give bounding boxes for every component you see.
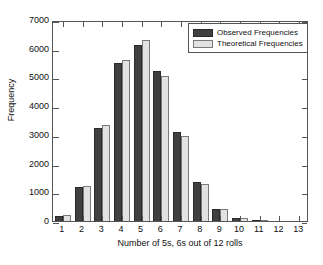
y-tick: 3000 [53,137,59,138]
bar-observed [252,220,260,221]
bar-group [92,22,112,221]
bar-observed [134,45,142,221]
y-tick-mirror [302,137,307,138]
bar-theoretical [161,76,169,221]
x-tick [122,216,123,221]
bar-theoretical [201,184,209,221]
y-tick-mirror [302,79,307,80]
legend-swatch-theoretical-icon [193,40,213,48]
x-tick [63,216,64,221]
bar-observed [232,218,240,221]
x-tick-label: 12 [268,224,288,234]
x-tick [83,216,84,221]
chart-legend: Observed Frequencies Theoretical Frequen… [188,23,308,53]
bar-group [73,22,93,221]
x-tick-label: 5 [131,224,151,234]
x-tick-label: 10 [229,224,249,234]
legend-item-theoretical: Theoretical Frequencies [193,38,303,49]
x-tick-label: 8 [190,224,210,234]
x-tick-label: 7 [170,224,190,234]
x-tick-mirror [161,22,162,27]
y-tick-label: 4000 [29,101,49,111]
y-tick-mirror [302,194,307,195]
bar-theoretical [220,209,228,221]
bar-theoretical [181,136,189,221]
bar-observed [193,182,201,221]
y-tick-label: 7000 [29,15,49,25]
x-tick-label: 1 [52,224,72,234]
y-tick: 7000 [53,22,59,23]
legend-label-observed: Observed Frequencies [217,28,298,38]
bar-observed [75,187,83,221]
x-tick-mirror [181,22,182,27]
x-axis-label: Number of 5s, 6s out of 12 rolls [52,238,308,248]
y-tick: 4000 [53,108,59,109]
bar-theoretical [122,60,130,221]
x-tick-label: 3 [91,224,111,234]
x-tick-mirror [142,22,143,27]
x-tick-label: 11 [249,224,269,234]
bar-observed [173,132,181,221]
bar-group [151,22,171,221]
y-tick-label: 3000 [29,130,49,140]
chart-figure: 01000200030004000500060007000 1234567891… [0,0,323,265]
y-tick-mirror [302,108,307,109]
x-tick-label: 6 [150,224,170,234]
x-tick [299,216,300,221]
bar-theoretical [240,218,248,221]
y-tick-label: 0 [44,216,49,226]
x-tick-mirror [83,22,84,27]
x-tick [240,216,241,221]
x-tick-mirror [122,22,123,27]
bar-group [132,22,152,221]
y-tick-label: 2000 [29,159,49,169]
x-tick [181,216,182,221]
x-tick [142,216,143,221]
y-tick: 2000 [53,166,59,167]
y-tick-label: 5000 [29,72,49,82]
bar-observed [212,209,220,221]
x-tick-mirror [102,22,103,27]
bar-theoretical [260,220,268,221]
x-tick-label: 9 [209,224,229,234]
bar-group [53,22,73,221]
legend-label-theoretical: Theoretical Frequencies [217,39,303,49]
y-tick-mirror [302,166,307,167]
x-tick [260,216,261,221]
x-tick-label: 2 [72,224,92,234]
bar-group [112,22,132,221]
y-axis-label: Frequency [6,55,16,145]
x-tick [102,216,103,221]
bar-theoretical [102,125,110,221]
legend-swatch-observed-icon [193,29,213,37]
bar-theoretical [63,215,71,221]
y-tick: 5000 [53,79,59,80]
x-tick [161,216,162,221]
bar-observed [153,71,161,221]
bar-observed [114,63,122,221]
x-tick-label: 4 [111,224,131,234]
bar-theoretical [83,186,91,221]
bar-theoretical [142,40,150,221]
x-tick-mirror [63,22,64,27]
x-tick [279,216,280,221]
bar-observed [55,216,63,221]
y-tick-label: 6000 [29,44,49,54]
legend-item-observed: Observed Frequencies [193,27,303,38]
y-tick: 6000 [53,51,59,52]
y-tick-label: 1000 [29,187,49,197]
y-tick: 1000 [53,194,59,195]
bar-observed [94,128,102,221]
x-tick [220,216,221,221]
x-tick [201,216,202,221]
x-tick-label: 13 [288,224,308,234]
